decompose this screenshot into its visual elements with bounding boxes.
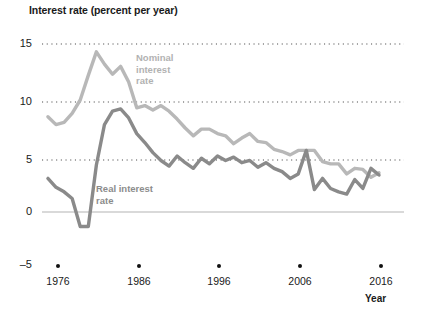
y-tick-label-neg5: –5 xyxy=(6,258,32,270)
x-tick-label-1976: 1976 xyxy=(35,275,81,287)
y-tick-label-15: 15 xyxy=(6,37,32,49)
x-tick-dot-2006 xyxy=(298,264,302,268)
y-tick-label-0: 0 xyxy=(6,205,32,217)
x-tick-dot-1986 xyxy=(137,264,141,268)
x-tick-dot-1976 xyxy=(56,264,60,268)
y-tick-label-5: 5 xyxy=(6,153,32,165)
series-line-real xyxy=(48,109,379,227)
x-tick-dot-1996 xyxy=(217,264,221,268)
series-label-real: Real interest rate xyxy=(96,183,154,206)
x-tick-label-2006: 2006 xyxy=(277,275,323,287)
x-tick-label-2016: 2016 xyxy=(358,275,404,287)
x-tick-label-1996: 1996 xyxy=(196,275,242,287)
x-tick-label-1986: 1986 xyxy=(116,275,162,287)
x-axis-title: Year xyxy=(365,293,386,304)
series-label-nominal: Nominal interest rate xyxy=(136,52,188,87)
y-tick-label-10: 10 xyxy=(6,95,32,107)
x-tick-dot-2016 xyxy=(379,264,383,268)
chart-figure: Interest rate (percent per year) 15 10 5… xyxy=(0,0,437,311)
